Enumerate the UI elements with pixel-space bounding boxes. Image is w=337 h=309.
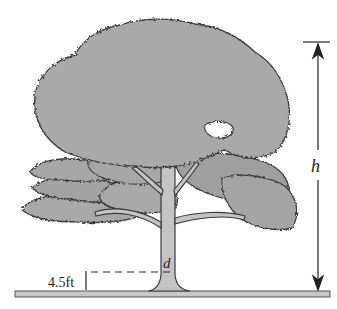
height-label: h [311, 156, 320, 176]
breast-height-label: 4.5ft [48, 275, 74, 290]
diameter-label: d [163, 255, 171, 271]
tree-diagram: h 4.5ft d [0, 0, 337, 309]
main-crown [35, 19, 290, 167]
ground [15, 291, 330, 297]
